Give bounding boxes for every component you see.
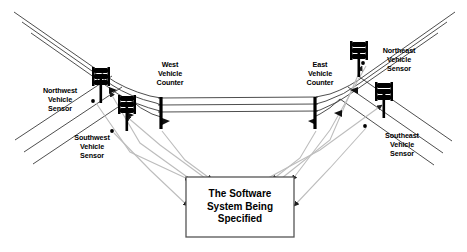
sensor-dot-northwest: [91, 99, 95, 103]
northeast-vehicle-sensor-label: Northeast Vehicle Sensor: [369, 46, 429, 74]
traffic-light-southwest: [118, 95, 136, 131]
northwest-vehicle-sensor-label: Northwest Vehicle Sensor: [30, 86, 90, 114]
traffic-light-northeast: [350, 41, 368, 77]
southwest-vehicle-sensor-label: Southwest Vehicle Sensor: [62, 133, 122, 161]
sensor-dot-southeast: [363, 124, 367, 128]
road-horizontal: [158, 97, 318, 112]
direction-markers: [109, 87, 358, 125]
direction-marker-west-counter: [162, 118, 170, 125]
traffic-light-northwest: [92, 67, 110, 103]
traffic-context-diagram: Northwest Vehicle Sensor Southwest Vehic…: [0, 0, 467, 252]
sensor-dot-northeast: [361, 61, 365, 65]
system-box-label: The Software System Being Specified: [186, 188, 294, 226]
east-vehicle-counter-label: East Vehicle Counter: [291, 60, 349, 88]
traffic-light-southeast: [375, 82, 393, 118]
southeast-vehicle-sensor-label: Southeast Vehicle Sensor: [372, 131, 432, 159]
connector-west-counter: [162, 131, 212, 180]
vehicle-counter-bars: [161, 97, 315, 129]
west-vehicle-counter-label: West Vehicle Counter: [141, 60, 199, 88]
